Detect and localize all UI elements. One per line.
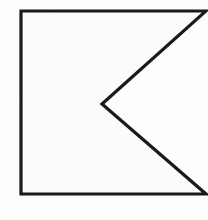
guidon-shape-figure	[0, 0, 208, 220]
figure-canvas	[0, 0, 208, 220]
